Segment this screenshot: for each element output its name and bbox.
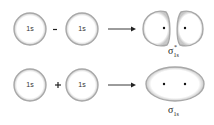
- bonding-label: σ1s: [168, 104, 179, 115]
- nucleus-dot: [163, 27, 165, 29]
- nucleus-dot: [184, 27, 186, 29]
- arrow-icon-row1: [108, 27, 136, 32]
- antibonding-lobe-right: [177, 11, 203, 46]
- orbital-label: 1s: [72, 25, 92, 32]
- subscript: 1s: [173, 52, 178, 58]
- orbital-label: 1s: [20, 81, 40, 88]
- plus-sign: [55, 82, 61, 88]
- nucleus-dot: [163, 83, 165, 85]
- diagram-graphics: [0, 0, 214, 125]
- subscript: 1s: [173, 111, 178, 117]
- mo-diagram: 1s 1s 1s 1s σ*1s σ1s: [0, 0, 214, 125]
- antibonding-label: σ*1s: [168, 45, 179, 56]
- arrow-icon-row2: [108, 83, 136, 88]
- star-superscript: *: [174, 44, 177, 50]
- antibonding-lobe-left: [143, 11, 170, 46]
- bonding-orbital-ellipse: [146, 67, 204, 101]
- nucleus-dot: [184, 83, 186, 85]
- orbital-label: 1s: [20, 25, 40, 32]
- orbital-label: 1s: [72, 81, 92, 88]
